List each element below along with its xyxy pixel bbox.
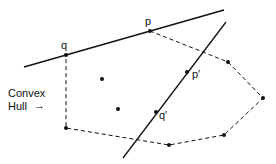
label-q-prime: q′ bbox=[159, 110, 167, 121]
arrow-right-icon: → bbox=[34, 100, 45, 111]
supporting-line-pq bbox=[24, 10, 224, 67]
label-p-prime: p′ bbox=[192, 69, 200, 80]
convex-hull-dashed bbox=[66, 31, 263, 145]
convex-hull-diagram: q p p′ q′ Convex Hull → bbox=[0, 0, 276, 164]
diagram-canvas bbox=[0, 0, 276, 164]
label-convex: Convex bbox=[8, 88, 45, 99]
label-p: p bbox=[145, 16, 151, 27]
label-hull: Hull bbox=[8, 101, 27, 112]
label-q: q bbox=[61, 40, 67, 51]
line-p-prime-q-prime bbox=[123, 22, 226, 158]
